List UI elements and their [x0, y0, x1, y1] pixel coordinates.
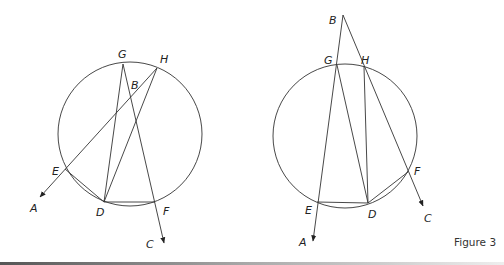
- right-segment-gd: [337, 65, 368, 203]
- right-ray-ba: [313, 15, 343, 241]
- left-segment-ed: [65, 169, 104, 202]
- right-segment-df: [368, 172, 408, 203]
- left-ray-bc: [123, 64, 164, 243]
- left-label-g: G: [118, 48, 127, 61]
- figure-caption: Figure 3: [454, 236, 496, 248]
- left-label-c: C: [146, 238, 154, 251]
- right-figure: B G H E D F A C: [273, 14, 432, 249]
- left-circle: [58, 62, 202, 206]
- right-label-g: G: [324, 54, 333, 67]
- right-label-e: E: [305, 204, 312, 217]
- right-segment-ed: [317, 202, 368, 203]
- left-label-f: F: [163, 205, 170, 218]
- left-label-e: E: [52, 165, 59, 178]
- left-segment-gd: [104, 64, 123, 202]
- right-segment-hd: [364, 67, 368, 203]
- left-label-h: H: [160, 53, 168, 66]
- right-label-b: B: [329, 14, 337, 27]
- right-ray-bc: [343, 15, 423, 206]
- right-label-d: D: [368, 208, 376, 221]
- left-figure: G H B E D F A C: [29, 48, 202, 251]
- right-label-a: A: [298, 236, 307, 249]
- left-label-a: A: [29, 202, 38, 215]
- left-label-d: D: [96, 206, 104, 219]
- left-label-b: B: [131, 79, 139, 92]
- geometry-diagram: G H B E D F A C B G H E D F A C Figure 3: [0, 0, 504, 265]
- right-label-h: H: [361, 54, 369, 67]
- right-label-f: F: [414, 165, 421, 178]
- right-label-c: C: [424, 212, 432, 225]
- right-circle: [273, 64, 417, 208]
